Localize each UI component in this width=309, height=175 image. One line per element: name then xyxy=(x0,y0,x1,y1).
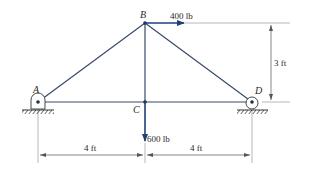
horizontal-force-label: 400 lb xyxy=(170,11,193,21)
member-ab xyxy=(38,23,145,102)
load-600lb: 600 lb xyxy=(145,102,170,144)
member-bd xyxy=(145,23,252,102)
height-dimension-label: 3 ft xyxy=(274,58,287,68)
truss-diagram: 3 ft 4 ft 4 ft 400 lb 6 xyxy=(0,0,309,175)
ground-hatch-d xyxy=(237,110,268,114)
node-label-c: C xyxy=(133,104,140,115)
node-label-d: D xyxy=(254,85,263,96)
height-dimension: 3 ft xyxy=(271,25,287,100)
ground-hatch-a xyxy=(22,110,54,114)
joint-d xyxy=(250,100,254,104)
load-400lb: 400 lb xyxy=(145,11,193,23)
right-span-label: 4 ft xyxy=(190,143,203,153)
roller-support-d xyxy=(237,97,268,114)
node-label-b: B xyxy=(140,9,146,20)
left-span-label: 4 ft xyxy=(84,143,97,153)
vertical-force-label: 600 lb xyxy=(147,134,170,144)
node-label-a: A xyxy=(32,84,40,95)
joint-a xyxy=(36,100,40,104)
truss-members xyxy=(38,23,252,102)
